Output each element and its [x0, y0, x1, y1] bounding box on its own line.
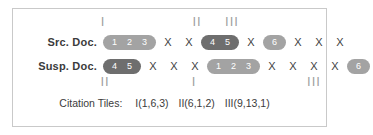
passage-cell: 3	[241, 59, 256, 74]
citation-tiles-caption: Citation Tiles: I(1,6,3)II(6,1,2)III(9,1…	[13, 97, 326, 109]
passage-pill: 123	[207, 59, 260, 74]
passage-pill: 123	[103, 35, 156, 50]
passage-cell: 5	[122, 59, 137, 74]
non-matching-marker: X	[186, 60, 204, 72]
non-matching-marker: X	[326, 60, 344, 72]
passage-cell: 1	[107, 35, 122, 50]
non-matching-marker: X	[159, 36, 177, 48]
tick-row-bottom: IIIIII	[13, 75, 326, 91]
passage-pill: 6	[347, 59, 370, 74]
passage-cell: 4	[205, 35, 220, 50]
passage-cell: 6	[351, 59, 366, 74]
tick-top-2: II	[192, 15, 201, 29]
non-matching-marker: X	[144, 60, 162, 72]
non-matching-marker: X	[263, 60, 281, 72]
caption-label: Citation Tiles:	[59, 97, 122, 109]
source-document-sequence: 123XX45X6XXX	[103, 31, 352, 53]
non-matching-marker: X	[165, 60, 183, 72]
passage-cell: 2	[122, 35, 137, 50]
suspicious-document-sequence: 45XXX123XXXX6	[103, 55, 373, 77]
citation-tile-3: III(9,13,1)	[225, 97, 270, 109]
non-matching-marker: X	[305, 60, 323, 72]
non-matching-marker: X	[242, 36, 260, 48]
tick-bottom-3: III	[307, 75, 321, 89]
passage-cell: 3	[137, 35, 152, 50]
non-matching-marker: X	[331, 36, 349, 48]
non-matching-marker: X	[289, 36, 307, 48]
passage-cell: 1	[211, 59, 226, 74]
passage-cell: 4	[107, 59, 122, 74]
source-document-row: Src. Doc. 123XX45X6XXX	[13, 31, 326, 53]
citation-tile-1: I(1,6,3)	[135, 97, 168, 109]
tick-top-1: I	[101, 15, 106, 29]
tick-row-top: IIIIII	[13, 15, 326, 31]
suspicious-document-label: Susp. Doc.	[13, 60, 97, 72]
passage-cell: 5	[220, 35, 235, 50]
tick-bottom-1: II	[100, 75, 109, 89]
passage-pill: 45	[201, 35, 239, 50]
citation-tiles-figure: IIIIII Src. Doc. 123XX45X6XXX Susp. Doc.…	[12, 8, 327, 127]
passage-cell: 2	[226, 59, 241, 74]
tick-bottom-2: I	[192, 75, 197, 89]
non-matching-marker: X	[180, 36, 198, 48]
suspicious-document-row: Susp. Doc. 45XXX123XXXX6	[13, 55, 326, 77]
non-matching-marker: X	[284, 60, 302, 72]
passage-pill: 6	[263, 35, 286, 50]
source-document-label: Src. Doc.	[13, 36, 97, 48]
tick-top-3: III	[225, 15, 239, 29]
passage-cell: 6	[267, 35, 282, 50]
non-matching-marker: X	[310, 36, 328, 48]
passage-pill: 45	[103, 59, 141, 74]
citation-tile-2: II(6,1,2)	[179, 97, 215, 109]
